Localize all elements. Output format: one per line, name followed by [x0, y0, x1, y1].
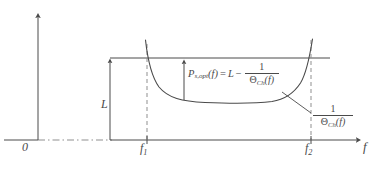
equation-fraction: 1 ΘCh(f)	[245, 62, 279, 85]
x-axis-label: f	[363, 140, 367, 153]
callout-fraction: 1 ΘCh(f)	[313, 104, 353, 127]
origin-label: 0	[22, 141, 28, 153]
callout-fraction-numerator: 1	[328, 104, 339, 115]
equation-lhs-subscript: s,opt	[194, 72, 208, 80]
water-level-label: L	[101, 98, 108, 110]
callout-theta-argument: (f)	[336, 116, 345, 127]
equation-lhs-argument: (f)	[208, 68, 218, 79]
power-allocation-equation: Ps,opt(f) = L − 1 ΘCh(f)	[188, 62, 280, 85]
equation-fraction-numerator: 1	[256, 62, 267, 73]
x-tick-label-f1: f1	[140, 142, 147, 154]
f2-subscript: 2	[308, 148, 312, 157]
callout-theta-symbol: Θ	[321, 116, 328, 127]
callout-leader-line	[282, 92, 311, 113]
waterfilling-diagram-svg	[0, 0, 383, 170]
noise-to-gain-callout: 1 ΘCh(f)	[312, 104, 354, 127]
theta-subscript: Ch	[257, 79, 265, 86]
theta-argument: (f)	[265, 74, 274, 85]
theta-symbol: Θ	[249, 74, 256, 85]
callout-theta-subscript: Ch	[328, 121, 336, 128]
equation-minus-sign: −	[234, 68, 244, 79]
x-tick-label-f2: f2	[305, 142, 312, 154]
equation-equals-sign: =	[218, 68, 228, 79]
figure-root: 0 L f1 f2 f Ps,opt(f) = L − 1 ΘCh(f) 1 Θ…	[0, 0, 383, 170]
callout-fraction-denominator: ΘCh(f)	[319, 116, 348, 128]
f1-subscript: 1	[143, 148, 147, 157]
equation-fraction-denominator: ΘCh(f)	[247, 74, 276, 86]
